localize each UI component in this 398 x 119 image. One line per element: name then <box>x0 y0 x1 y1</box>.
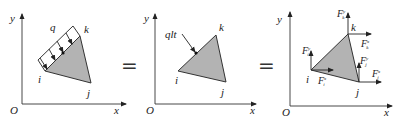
x-axis-label: x <box>249 104 255 116</box>
node-label-i: i <box>38 73 41 85</box>
origin-label: O <box>10 104 18 116</box>
resultant-label-qlt: qlt <box>165 28 178 40</box>
force-label-Fyj: Fyj <box>359 55 369 67</box>
y-axis-label: y <box>143 12 149 24</box>
origin-label: O <box>146 104 154 116</box>
load-arrow <box>40 58 47 69</box>
y-axis-label: y <box>9 12 15 24</box>
load-label-q: q <box>50 21 56 33</box>
node-label-k: k <box>84 23 90 35</box>
panel-resultant-force: y x O qlt i j k <box>143 12 256 116</box>
force-label-Fyi: Fyi <box>301 45 311 57</box>
x-axis-label: x <box>383 106 389 118</box>
node-label-k: k <box>219 21 225 33</box>
node-label-j: j <box>219 86 224 98</box>
panel-distributed-load: y x O q i j k <box>9 12 126 116</box>
node-label-i: i <box>306 73 309 85</box>
load-centroid-dot <box>61 51 64 54</box>
triangle-element <box>178 35 226 82</box>
resultant-point <box>194 51 197 54</box>
equals-sign-2: = <box>258 53 275 77</box>
node-label-j: j <box>354 86 359 98</box>
origin-label: O <box>282 106 290 118</box>
force-label-Fxj: Fxj <box>371 68 381 80</box>
resultant-arrow <box>182 34 195 52</box>
equals-sign-1: = <box>121 53 138 77</box>
triangle-element <box>45 36 91 83</box>
node-label-k: k <box>351 21 357 33</box>
load-arrow <box>66 33 72 44</box>
y-axis-label: y <box>276 13 282 25</box>
node-label-i: i <box>175 74 178 86</box>
equivalent-nodal-load-diagram: y x O q i j k = y x O qlt i <box>0 0 398 119</box>
load-arrow <box>49 49 55 60</box>
force-label-Fyk: Fyk <box>336 8 346 20</box>
force-label-Fxk: Fxk <box>360 38 370 50</box>
panel-nodal-forces: y x O Fyi Fxi Fyj Fxj Fyk Fxk i j k <box>276 8 392 118</box>
x-axis-label: x <box>113 104 119 116</box>
load-arrow <box>57 41 63 52</box>
force-label-Fxi: Fxi <box>317 75 327 87</box>
node-label-j: j <box>85 87 90 99</box>
